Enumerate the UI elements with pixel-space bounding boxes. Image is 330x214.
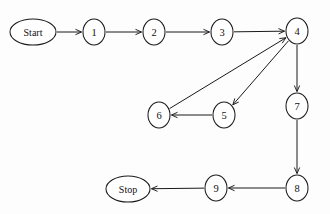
edge-n1-to-n2 (106, 29, 142, 34)
node-n2[interactable]: 2 (143, 19, 165, 45)
node-stop[interactable]: Stop (106, 176, 150, 202)
edge-n6-to-n4 (170, 38, 286, 109)
node-n5[interactable]: 5 (213, 102, 235, 128)
node-n3[interactable]: 3 (211, 19, 233, 45)
node-label-n3: 3 (219, 27, 224, 38)
node-n8[interactable]: 8 (286, 175, 308, 201)
node-start[interactable]: Start (10, 19, 56, 45)
node-label-n9: 9 (213, 183, 218, 194)
edge-n9-to-stop (151, 186, 204, 191)
edge-start-to-n1 (57, 29, 82, 34)
node-n6[interactable]: 6 (148, 102, 170, 128)
node-label-n4: 4 (294, 26, 300, 37)
node-n7[interactable]: 7 (286, 93, 308, 119)
node-label-start: Start (24, 27, 43, 38)
edge-layer (57, 29, 300, 191)
edge-n8-to-n9 (229, 185, 286, 190)
edge-n7-to-n8 (294, 120, 299, 174)
node-n1[interactable]: 1 (83, 19, 105, 45)
node-label-n6: 6 (156, 110, 161, 121)
edge-n4-to-n5 (233, 41, 289, 105)
edge-n2-to-n3 (166, 29, 210, 34)
node-label-stop: Stop (119, 184, 137, 195)
edge-n5-to-n6 (172, 112, 213, 117)
node-layer: Start123456789Stop (10, 18, 308, 202)
node-label-n1: 1 (91, 27, 96, 38)
node-label-n7: 7 (294, 101, 299, 112)
flowchart-diagram: Start123456789Stop (0, 0, 330, 214)
node-label-n5: 5 (221, 110, 226, 121)
node-label-n2: 2 (151, 27, 156, 38)
node-n4[interactable]: 4 (286, 18, 308, 44)
node-n9[interactable]: 9 (205, 175, 227, 201)
edge-n4-to-n7 (294, 45, 299, 92)
node-label-n8: 8 (294, 183, 299, 194)
edge-n3-to-n4 (234, 29, 285, 34)
arrowhead-icon (280, 38, 286, 43)
flowchart-canvas: Start123456789Stop (0, 0, 330, 214)
